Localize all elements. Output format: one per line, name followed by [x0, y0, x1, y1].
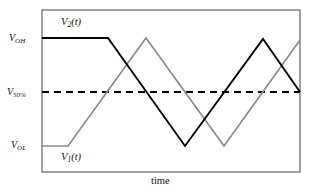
waveform-figure: VOH V50% VOL V2(t) V1(t) time [0, 0, 318, 193]
y-axis-label-vol-sub: OL [17, 144, 26, 152]
x-axis-title: time [151, 176, 170, 187]
y-axis-label-v50: V50% [7, 87, 26, 99]
series-annotation-v2-suffix: (t) [71, 16, 81, 27]
series-annotation-v1: V1(t) [61, 152, 81, 163]
y-axis-label-v50-sub: 50% [13, 91, 26, 99]
y-axis-label-vol: VOL [11, 140, 26, 152]
waveform-plot-svg [0, 0, 318, 193]
y-axis-label-voh: VOH [9, 33, 25, 45]
series-annotation-v1-suffix: (t) [71, 151, 81, 162]
y-axis-label-voh-sub: OH [15, 37, 25, 45]
series-annotation-v2: V2(t) [61, 17, 81, 28]
